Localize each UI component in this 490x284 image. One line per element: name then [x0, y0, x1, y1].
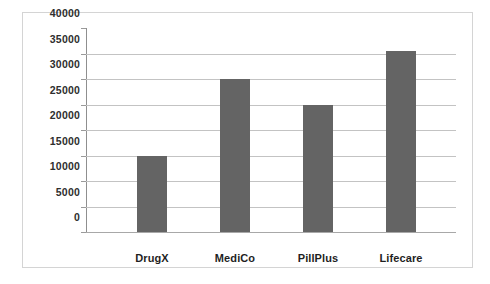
y-tick-label-5000: 5000: [56, 186, 80, 198]
category-label-medico: MediCo: [195, 252, 275, 264]
y-tick-label-25000: 25000: [50, 84, 80, 96]
y-tick-label-30000: 30000: [50, 58, 80, 70]
y-tick-label-10000: 10000: [50, 160, 80, 172]
bar-drugx[interactable]: [137, 156, 167, 233]
y-tick-label-15000: 15000: [50, 135, 80, 147]
category-label-drugx: DrugX: [112, 252, 192, 264]
y-tick-label-35000: 35000: [50, 33, 80, 45]
plot-area: DrugX MediCo PillPlus Lifecare: [86, 28, 456, 232]
y-tick-label-0: 0: [74, 211, 80, 223]
category-label-lifecare: Lifecare: [361, 252, 441, 264]
bar-lifecare[interactable]: [386, 51, 416, 232]
bar-chart-figure: 40000 35000 30000 25000 20000 15000 1000…: [22, 12, 473, 268]
bar-medico[interactable]: [220, 79, 250, 232]
y-tick-label-40000: 40000: [50, 7, 80, 19]
bar-pillplus[interactable]: [303, 105, 333, 233]
y-tick-label-20000: 20000: [50, 109, 80, 121]
gridline-baseline-0: [86, 232, 456, 233]
category-label-pillplus: PillPlus: [278, 252, 358, 264]
y-axis-tick-labels: 40000 35000 30000 25000 20000 15000 1000…: [23, 13, 80, 267]
